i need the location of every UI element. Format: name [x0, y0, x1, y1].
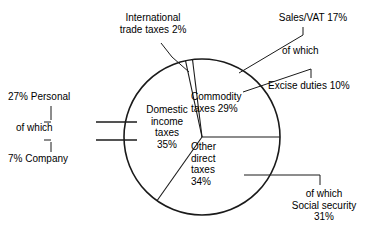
- label-international-trade-taxes: International trade taxes 2%: [101, 12, 205, 35]
- label-of-which-top: of which: [282, 45, 352, 57]
- label-of-which-left: of which: [16, 122, 96, 134]
- label-sales-vat: Sales/VAT 17%: [258, 12, 368, 24]
- pie-chart-figure: International trade taxes 2% Sales/VAT 1…: [0, 0, 375, 242]
- label-personal-share: 27% Personal: [8, 91, 104, 103]
- label-company-share: 7% Company: [8, 153, 104, 165]
- label-excise-duties: Excise duties 10%: [268, 80, 374, 92]
- label-commodity-taxes: Commodity taxes 29%: [191, 91, 271, 114]
- label-other-direct-taxes: Other direct taxes 34%: [191, 141, 247, 187]
- label-social-security: of which Social security 31%: [276, 188, 372, 223]
- label-domestic-income-taxes: Domestic income taxes 35%: [135, 104, 199, 150]
- leader-social-security: [244, 175, 320, 185]
